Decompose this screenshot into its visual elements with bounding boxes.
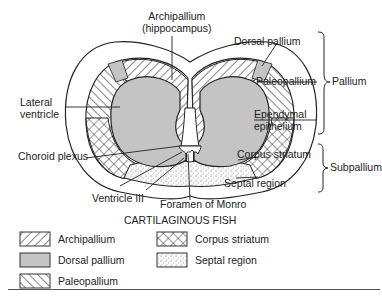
label-dorsal-pallium: Dorsal pallium [234, 35, 301, 47]
label-ventricle-iii: Ventricle III [92, 192, 144, 204]
legend-swatch-septal-region [157, 253, 187, 267]
bottom-divider [8, 289, 380, 290]
legend-label-archipallium: Archipallium [58, 233, 115, 245]
legend-swatch-paleopallium [20, 274, 50, 288]
subpallium-brace [318, 144, 328, 192]
legend-label-dorsal-pallium: Dorsal pallium [58, 254, 125, 266]
legend-swatch-corpus-striatum [157, 232, 187, 246]
label-archipallium-line2: (hippocampus) [142, 22, 211, 34]
label-pallium-group: Pallium [332, 75, 366, 87]
label-foramen-of-monro: Foramen of Monro [160, 198, 246, 210]
label-septal-region: Septal region [224, 177, 286, 189]
label-corpus-striatum: Corpus striatum [237, 148, 311, 160]
label-ependymal-line1: Ependymal [254, 108, 307, 120]
label-choroid-plexus: Choroid plexus [18, 150, 88, 162]
legend-swatch-archipallium [20, 232, 50, 246]
legend-swatch-dorsal-pallium [20, 253, 50, 267]
pallium-brace [318, 32, 330, 134]
label-subpallium-group: Subpallium [330, 161, 382, 173]
label-lateral-ventricle: Lateral ventricle [20, 96, 59, 120]
legend-label-septal-region: Septal region [195, 254, 257, 266]
legend-label-paleopallium: Paleopallium [58, 275, 118, 287]
diagram-caption: CARTILAGINOUS FISH [124, 214, 236, 226]
label-lateral-ventricle-line2: ventricle [20, 108, 59, 120]
label-ependymal-line2: epithelium [254, 120, 307, 132]
label-archipallium-line1: Archipallium [142, 10, 211, 22]
label-paleopallium: Paleopallium [256, 75, 316, 87]
legend-label-corpus-striatum: Corpus striatum [195, 233, 269, 245]
label-ependymal-epithelium: Ependymal epithelium [254, 108, 307, 132]
label-archipallium: Archipallium (hippocampus) [142, 10, 211, 34]
label-lateral-ventricle-line1: Lateral [20, 96, 59, 108]
